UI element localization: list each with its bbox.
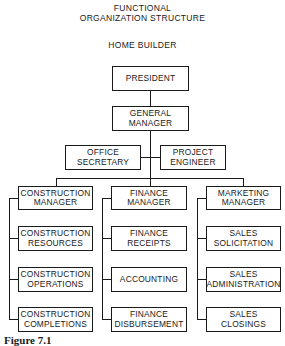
figure-caption: Figure 7.1 [4, 334, 51, 346]
connector-to-marketing [243, 178, 244, 186]
box-construction-operations: CONSTRUCTION OPERATIONS [18, 267, 93, 292]
box-finance-receipts: FINANCE RECEIPTS [111, 226, 187, 251]
box-general-manager: GENERAL MANAGER [112, 106, 189, 131]
construction-tick-2 [9, 238, 18, 239]
finance-tick-4 [102, 319, 111, 320]
finance-spine [102, 198, 103, 320]
box-finance-manager: FINANCE MANAGER [111, 186, 187, 210]
construction-spine [9, 198, 10, 320]
box-construction-resources: CONSTRUCTION RESOURCES [18, 226, 93, 251]
chart-title-line2: ORGANIZATION STRUCTURE [0, 13, 285, 23]
marketing-tick-2 [197, 238, 206, 239]
construction-tick-3 [9, 279, 18, 280]
finance-tick-2 [102, 238, 111, 239]
connector-staff [141, 157, 160, 158]
marketing-spine [197, 198, 198, 320]
box-finance-disbursement: FINANCE DISBURSEMENT [111, 307, 187, 332]
box-construction-completions: CONSTRUCTION COMPLETIONS [18, 307, 93, 332]
marketing-tick-4 [197, 319, 206, 320]
construction-tick-1 [9, 198, 18, 199]
box-sales-closings: SALES CLOSINGS [206, 307, 281, 332]
box-construction-manager: CONSTRUCTION MANAGER [18, 186, 93, 210]
box-project-engineer: PROJECT ENGINEER [160, 145, 226, 170]
construction-tick-4 [9, 319, 18, 320]
connector-president-gm [150, 91, 151, 106]
chart-subtitle: HOME BUILDER [0, 40, 285, 50]
box-sales-administration: SALES ADMINISTRATION [206, 267, 281, 292]
connector-to-construction [56, 178, 57, 186]
connector-gm-trunk [150, 130, 151, 178]
box-office-secretary: OFFICE SECRETARY [65, 145, 141, 170]
box-sales-solicitation: SALES SOLICITATION [206, 226, 281, 251]
chart-title-line1: FUNCTIONAL [0, 3, 285, 13]
marketing-tick-1 [197, 198, 206, 199]
box-accounting: ACCOUNTING [111, 267, 187, 292]
connector-to-finance [150, 178, 151, 186]
finance-tick-1 [102, 198, 111, 199]
marketing-tick-3 [197, 279, 206, 280]
finance-tick-3 [102, 279, 111, 280]
box-president: PRESIDENT [112, 66, 189, 91]
box-marketing-manager: MARKETING MANAGER [206, 186, 281, 210]
